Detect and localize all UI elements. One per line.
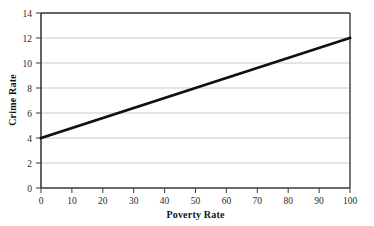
x-tick-label-90: 90	[314, 196, 324, 206]
x-tick-label-60: 60	[222, 196, 232, 206]
y-tick-label-2: 2	[27, 159, 32, 169]
x-tick-label-10: 10	[67, 196, 77, 206]
y-tick-label-12: 12	[23, 34, 33, 44]
y-tick-label-10: 10	[23, 59, 33, 69]
x-tick-label-50: 50	[191, 196, 201, 206]
x-tick-label-0: 0	[39, 196, 44, 206]
y-tick-label-4: 4	[27, 134, 32, 144]
x-tick-label-30: 30	[129, 196, 139, 206]
y-tick-label-8: 8	[27, 84, 32, 94]
chart-container: 0 10 20 30 40 50 60 70 80 90 100 0 2 4 6…	[0, 0, 374, 226]
x-tick-label-20: 20	[98, 196, 108, 206]
y-tick-label-0: 0	[27, 184, 32, 194]
line-chart: 0 10 20 30 40 50 60 70 80 90 100 0 2 4 6…	[0, 0, 374, 226]
y-tick-label-14: 14	[23, 9, 33, 19]
x-axis-title: Poverty Rate	[166, 209, 225, 220]
y-tick-label-6: 6	[27, 109, 32, 119]
y-axis-title: Crime Rate	[7, 74, 18, 126]
x-tick-label-80: 80	[283, 196, 293, 206]
x-tick-label-100: 100	[343, 196, 358, 206]
x-tick-label-70: 70	[253, 196, 263, 206]
x-tick-label-40: 40	[160, 196, 170, 206]
